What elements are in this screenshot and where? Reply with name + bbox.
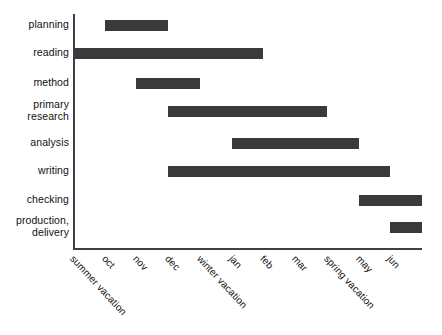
gantt-bar-production-delivery[interactable] bbox=[390, 222, 422, 233]
x-tick-label-jan: jan bbox=[227, 253, 244, 270]
task-label-line: delivery bbox=[3, 227, 69, 239]
task-label-planning: planning bbox=[3, 19, 69, 31]
gantt-bar-primary-research[interactable] bbox=[168, 106, 327, 117]
task-label-production-delivery: production,delivery bbox=[3, 215, 69, 238]
task-label-line: primary bbox=[3, 99, 69, 111]
x-tick-label-nov: nov bbox=[131, 253, 150, 273]
gantt-bar-reading[interactable] bbox=[73, 48, 263, 59]
x-tick-label-dec: dec bbox=[163, 253, 182, 273]
x-tick-label-summer-vacation: summer vacation bbox=[68, 253, 129, 317]
x-tick-label-may: may bbox=[354, 253, 375, 275]
task-label-line: writing bbox=[3, 165, 69, 177]
task-label-writing: writing bbox=[3, 165, 69, 177]
gantt-chart: planningreadingmethodprimaryresearchanal… bbox=[0, 0, 442, 335]
x-tick-label-feb: feb bbox=[258, 253, 276, 271]
task-label-line: research bbox=[3, 111, 69, 123]
task-label-primary-research: primaryresearch bbox=[3, 99, 69, 122]
x-tick-label-oct: oct bbox=[100, 253, 117, 270]
row-label-column: planningreadingmethodprimaryresearchanal… bbox=[0, 0, 69, 250]
x-axis-line bbox=[73, 248, 422, 250]
task-label-line: reading bbox=[3, 47, 69, 59]
gantt-bar-method[interactable] bbox=[136, 78, 199, 89]
x-tick-label-mar: mar bbox=[290, 253, 310, 273]
task-label-analysis: analysis bbox=[3, 137, 69, 149]
gantt-bar-checking[interactable] bbox=[359, 195, 422, 206]
task-label-line: analysis bbox=[3, 137, 69, 149]
gantt-bar-writing[interactable] bbox=[168, 166, 390, 177]
task-label-method: method bbox=[3, 77, 69, 89]
task-label-line: checking bbox=[3, 194, 69, 206]
task-label-line: method bbox=[3, 77, 69, 89]
gantt-bar-planning[interactable] bbox=[105, 20, 168, 31]
task-label-checking: checking bbox=[3, 194, 69, 206]
gantt-bar-analysis[interactable] bbox=[232, 138, 359, 149]
task-label-line: planning bbox=[3, 19, 69, 31]
task-label-line: production, bbox=[3, 215, 69, 227]
task-label-reading: reading bbox=[3, 47, 69, 59]
x-tick-label-jun: jun bbox=[385, 253, 402, 270]
